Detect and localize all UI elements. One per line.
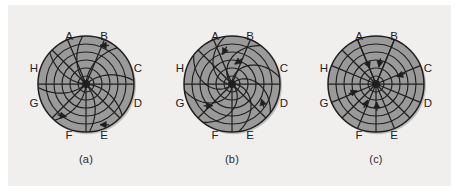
direction-label-g: G [320,97,329,109]
direction-label-b: B [390,30,398,42]
diagram-c-svg: ABCDEFGH [302,5,450,155]
direction-label-h: H [320,62,328,74]
panel-c: ABCDEFGH (c) [302,5,450,186]
direction-label-e: E [246,129,254,141]
figure-root: ABCDEFGH (a) ABCDEFGH (b) ABCDEFGH (c) [0,0,459,193]
direction-label-f: F [211,129,218,141]
direction-label-h: H [30,62,38,74]
diagram-a-svg: ABCDEFGH [12,5,160,155]
direction-label-a: A [355,30,363,42]
figure-plate: ABCDEFGH (a) ABCDEFGH (b) ABCDEFGH (c) [8,5,451,186]
direction-label-b: B [100,30,108,42]
diagram-b-svg: ABCDEFGH [158,5,306,155]
direction-label-h: H [176,62,184,74]
direction-label-a: A [65,30,73,42]
panel-c-caption: (c) [302,153,450,165]
direction-label-f: F [65,129,72,141]
direction-label-d: D [424,97,432,109]
direction-label-f: F [355,129,362,141]
direction-label-b: B [246,30,254,42]
direction-label-e: E [390,129,398,141]
direction-label-a: A [211,30,219,42]
panel-b-caption: (b) [158,153,306,165]
direction-label-g: G [30,97,39,109]
direction-label-d: D [280,97,288,109]
direction-label-c: C [424,62,432,74]
direction-label-c: C [280,62,288,74]
direction-label-c: C [134,62,142,74]
direction-label-d: D [134,97,142,109]
panel-a: ABCDEFGH (a) [12,5,160,186]
panel-a-caption: (a) [12,153,160,165]
direction-label-g: G [176,97,185,109]
panel-b: ABCDEFGH (b) [158,5,306,186]
direction-label-e: E [100,129,108,141]
